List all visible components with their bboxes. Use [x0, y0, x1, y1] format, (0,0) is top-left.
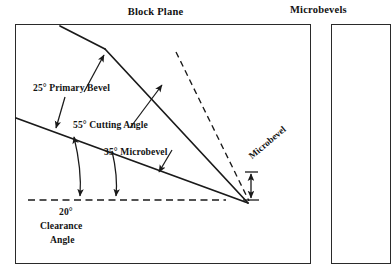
label-cutting-angle: 55° Cutting Angle: [73, 119, 148, 130]
primary-bevel-extension-dashed: [176, 52, 249, 201]
label-clearance-degrees: 20°: [59, 206, 73, 217]
clearance-angle-arc-left: [74, 137, 80, 196]
label-clearance-angle-word: Angle: [50, 234, 74, 245]
leader-primary-bevel-lower: [56, 97, 65, 128]
label-microbevel-angle: 35° Microbevel: [104, 146, 167, 157]
microbevel-dimension-arrow: [243, 172, 259, 200]
label-primary-bevel: 25° Primary Bevel: [33, 82, 110, 93]
label-clearance-word: Clearance: [40, 220, 82, 231]
clearance-angle-arc-right: [112, 151, 117, 196]
blade-outline: [16, 26, 248, 203]
